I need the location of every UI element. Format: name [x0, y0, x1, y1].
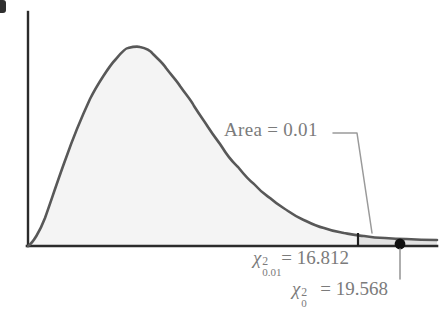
- test-statistic-dot: [395, 239, 406, 250]
- area-leader-line: [333, 133, 372, 233]
- critical-value-equation: = 16.812: [281, 247, 349, 268]
- critical-value-subscript: 0.01: [262, 267, 281, 278]
- test-statistic-chi-symbol: χ: [292, 278, 300, 299]
- area-label: Area = 0.01: [224, 120, 318, 139]
- chi-square-plot: [0, 0, 444, 314]
- test-statistic-label: χ20= 19.568: [292, 279, 388, 298]
- critical-value-chi-symbol: χ: [253, 247, 261, 268]
- distribution-area-fill: [28, 47, 437, 246]
- critical-value-label: χ20.01= 16.812: [253, 248, 349, 267]
- chi-square-figure: Area = 0.01 χ20.01= 16.812 χ20= 19.568: [0, 0, 444, 314]
- test-statistic-equation: = 19.568: [320, 278, 388, 299]
- area-label-text: Area = 0.01: [224, 119, 318, 140]
- test-statistic-subscript: 0: [301, 298, 307, 309]
